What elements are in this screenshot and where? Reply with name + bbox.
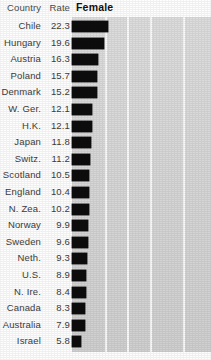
cell-country: Poland [11,70,41,81]
bar [72,38,104,49]
cell-country: N. Ire. [14,286,41,297]
cell-rate: 15.2 [51,86,70,97]
table-row: Poland15.7 [0,70,72,86]
bar [72,303,85,314]
table-row: Hungary19.6 [0,37,72,53]
bar [72,320,85,331]
table-row: England10.4 [0,186,72,202]
bar [72,71,97,82]
table-row: W. Ger.12.1 [0,103,72,119]
bar [72,121,92,132]
suicide-rate-chart-figure: Female Country Rate Chile22.3Hungary19.6… [0,0,211,360]
cell-rate: 9.3 [56,252,70,263]
bar [72,253,87,264]
cell-rate: 12.1 [51,103,70,114]
cell-rate: 16.3 [51,53,70,64]
table-header-row: Country Rate [0,0,72,17]
table-row: U.S.8.9 [0,269,72,285]
cell-rate: 8.4 [56,286,70,297]
table-row: Denmark15.2 [0,86,72,102]
table-row: Scotland10.5 [0,169,72,185]
column-header-country: Country [7,2,41,13]
table-row: Japan11.8 [0,136,72,152]
cell-rate: 10.4 [51,186,70,197]
bar [72,237,88,248]
cell-rate: 5.8 [56,335,70,346]
bar [72,54,98,65]
cell-country: Chile [19,20,41,31]
cell-country: Hungary [4,37,41,48]
bar [72,104,92,115]
cell-country: Japan [14,136,41,147]
table-row: N. Zea.10.2 [0,203,72,219]
cell-rate: 11.8 [52,136,70,147]
cell-rate: 22.3 [51,20,70,31]
data-table: Country Rate Chile22.3Hungary19.6Austria… [0,0,72,360]
bar [72,287,86,298]
bar [72,154,90,165]
table-row: Switz.11.2 [0,153,72,169]
cell-rate: 9.6 [56,236,70,247]
table-row: N. Ire.8.4 [0,286,72,302]
cell-rate: 7.9 [56,319,70,330]
table-row: Israel5.8 [0,335,72,351]
cell-country: N. Zea. [9,203,41,214]
cell-country: Neth. [18,252,41,263]
table-row: Norway9.9 [0,219,72,235]
bar [72,137,91,148]
bar [72,204,89,215]
table-row: Sweden9.6 [0,236,72,252]
column-header-rate: Rate [50,2,70,13]
cell-rate: 10.5 [51,169,70,180]
cell-rate: 11.2 [52,153,70,164]
cell-rate: 9.9 [56,219,70,230]
series-title: Female [76,1,113,13]
table-row: Canada8.3 [0,302,72,318]
cell-rate: 12.1 [51,120,70,131]
cell-country: Scotland [3,169,41,180]
bar [72,270,86,281]
cell-country: U.S. [22,269,41,280]
bar [72,187,89,198]
bar [72,21,108,32]
bar [72,220,88,231]
cell-rate: 8.3 [56,302,70,313]
plot-panel [72,17,211,352]
cell-country: H.K. [22,120,41,131]
table-row: Chile22.3 [0,20,72,36]
bar-series-female [72,17,211,352]
cell-country: Sweden [6,236,41,247]
cell-country: Austria [10,53,41,64]
cell-country: Denmark [1,86,41,97]
cell-rate: 10.2 [51,203,70,214]
cell-country: Israel [17,335,41,346]
table-row: Neth.9.3 [0,252,72,268]
table-row: Australia7.9 [0,319,72,335]
cell-country: Switz. [15,153,41,164]
table-row: Austria16.3 [0,53,72,69]
cell-country: W. Ger. [8,103,41,114]
table-row: H.K.12.1 [0,120,72,136]
cell-rate: 19.6 [51,37,70,48]
bar [72,170,89,181]
bar [72,87,97,98]
cell-country: Canada [7,302,41,313]
cell-rate: 15.7 [51,70,70,81]
cell-rate: 8.9 [56,269,70,280]
cell-country: England [5,186,41,197]
cell-country: Norway [8,219,41,230]
bar [72,336,81,347]
cell-country: Australia [3,319,41,330]
